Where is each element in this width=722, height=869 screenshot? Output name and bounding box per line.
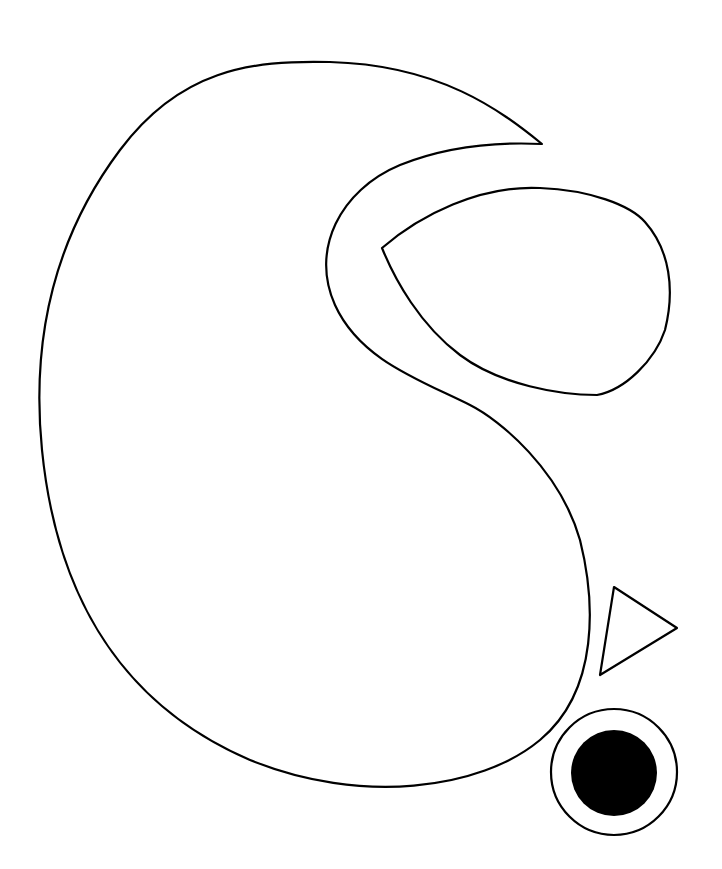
bean-shape — [39, 62, 589, 787]
teardrop-shape — [382, 188, 670, 395]
triangle-shape — [600, 587, 677, 675]
filled-dot — [571, 730, 657, 816]
drawing-canvas — [0, 0, 722, 869]
